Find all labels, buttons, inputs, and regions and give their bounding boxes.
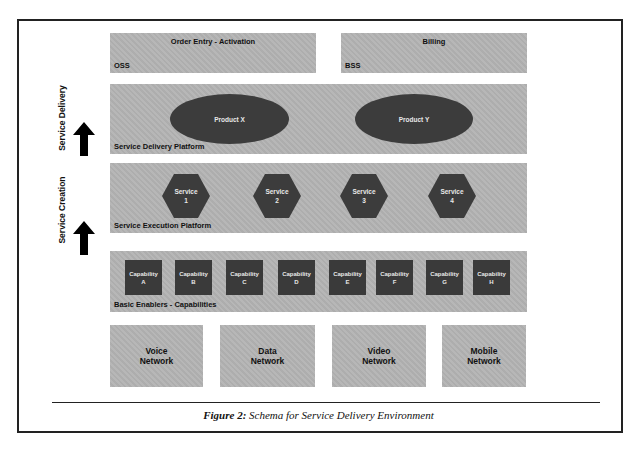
capability-f-node: Capability F [376, 260, 413, 295]
video-network-block: Video Network [332, 325, 426, 387]
network-suffix: Network [362, 356, 396, 366]
capability-letter: H [489, 278, 493, 286]
service-delivery-label: Service Delivery [57, 73, 67, 163]
network-name: Mobile [471, 346, 498, 356]
capability-letter: G [442, 278, 447, 286]
capability-name: Capability [430, 270, 459, 278]
service-name: Service [352, 187, 375, 196]
caption-divider [52, 402, 600, 403]
mobile-network-block: Mobile Network [442, 325, 526, 387]
capability-name: Capability [282, 270, 311, 278]
capability-letter: A [141, 278, 145, 286]
oss-block: Order Entry - Activation OSS [110, 33, 316, 73]
service-number: 3 [362, 196, 366, 205]
capability-name: Capability [179, 270, 208, 278]
capability-e-node: Capability E [329, 260, 366, 295]
service-number: 1 [184, 196, 188, 205]
capability-letter: C [242, 278, 246, 286]
network-name: Data [258, 346, 276, 356]
service-creation-label: Service Creation [57, 165, 67, 255]
capability-d-node: Capability D [278, 260, 315, 295]
capability-letter: E [345, 278, 349, 286]
capability-letter: B [191, 278, 195, 286]
bss-block: Billing BSS [341, 33, 527, 73]
service-number: 2 [275, 196, 279, 205]
sep-label: Service Execution Platform [114, 221, 211, 230]
caption-text: Schema for Service Delivery Environment [246, 409, 433, 421]
capability-letter: F [393, 278, 397, 286]
service-number: 4 [450, 196, 454, 205]
caption-prefix: Figure 2: [203, 409, 246, 421]
capability-g-node: Capability G [426, 260, 463, 295]
capability-letter: D [294, 278, 298, 286]
service-name: Service [265, 187, 288, 196]
sdp-label: Service Delivery Platform [114, 142, 204, 151]
bss-label: BSS [345, 61, 360, 70]
capability-name: Capability [230, 270, 259, 278]
oss-title: Order Entry - Activation [110, 37, 316, 46]
basic-enablers-label: Basic Enablers - Capabilities [114, 300, 217, 309]
basic-enablers-layer: Basic Enablers - Capabilities [110, 251, 527, 312]
up-arrow-icon [73, 122, 95, 156]
capability-h-node: Capability H [473, 260, 510, 295]
network-name: Voice [145, 346, 167, 356]
capability-name: Capability [380, 270, 409, 278]
product-x-node: Product X [170, 94, 289, 144]
voice-network-block: Voice Network [110, 325, 203, 387]
network-suffix: Network [140, 356, 174, 366]
capability-c-node: Capability C [226, 260, 263, 295]
network-suffix: Network [251, 356, 285, 366]
capability-name: Capability [129, 270, 158, 278]
data-network-block: Data Network [220, 325, 315, 387]
capability-name: Capability [333, 270, 362, 278]
oss-label: OSS [114, 61, 130, 70]
network-suffix: Network [467, 356, 501, 366]
service-name: Service [174, 187, 197, 196]
capability-a-node: Capability A [125, 260, 162, 295]
bss-title: Billing [341, 37, 527, 46]
network-name: Video [368, 346, 391, 356]
figure-caption: Figure 2: Schema for Service Delivery En… [0, 409, 637, 421]
product-y-node: Product Y [355, 94, 473, 144]
capability-b-node: Capability B [175, 260, 212, 295]
up-arrow-icon [73, 221, 95, 255]
service-name: Service [440, 187, 463, 196]
capability-name: Capability [477, 270, 506, 278]
